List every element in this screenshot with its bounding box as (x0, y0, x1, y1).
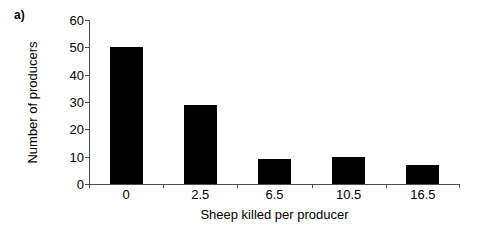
y-axis-tick-mark (85, 102, 89, 103)
bar (332, 157, 365, 184)
y-axis-title: Number of producers (22, 20, 42, 184)
y-axis-tick-label: 0 (50, 178, 84, 191)
x-axis-tick-labels: 02.56.510.516.5 (89, 188, 460, 206)
y-axis-tick-label: 50 (50, 41, 84, 54)
y-axis-tick-labels: 0102030405060 (50, 14, 84, 194)
x-axis-tick-label: 2.5 (191, 188, 209, 201)
y-axis-tick-label: 60 (50, 14, 84, 27)
y-axis-title-text: Number of producers (26, 41, 39, 163)
plot-area (89, 20, 460, 184)
x-axis-tick-label: 10.5 (336, 188, 361, 201)
y-axis-tick-label: 10 (50, 150, 84, 163)
y-axis-tick-label: 30 (50, 96, 84, 109)
x-axis-title: Sheep killed per producer (89, 208, 460, 221)
x-axis-tick-label: 16.5 (410, 188, 435, 201)
x-axis-tick-label: 0 (122, 188, 129, 201)
y-axis-tick-label: 40 (50, 68, 84, 81)
y-axis-tick-label: 20 (50, 123, 84, 136)
y-axis-tick-mark (85, 129, 89, 130)
bar (184, 105, 217, 184)
y-axis-tick-mark (85, 20, 89, 21)
bar (110, 47, 143, 184)
x-axis-tick-label: 6.5 (265, 188, 283, 201)
x-axis-line (89, 184, 460, 185)
y-axis-tick-mark (85, 75, 89, 76)
bar (406, 165, 439, 184)
y-axis-tick-mark (85, 157, 89, 158)
y-axis-tick-mark (85, 47, 89, 48)
bar (258, 159, 291, 184)
figure-panel: a) Number of producers 0102030405060 02.… (0, 0, 492, 232)
y-axis-line (89, 20, 90, 185)
